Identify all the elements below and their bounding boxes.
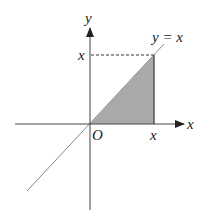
x-tick-label: x bbox=[149, 127, 157, 143]
y-axis-label: y bbox=[83, 10, 92, 26]
line-label: y = x bbox=[150, 29, 183, 45]
x-axis-label: x bbox=[186, 116, 194, 132]
origin-label: O bbox=[92, 127, 103, 143]
diagram-canvas: y x O x x y = x bbox=[0, 0, 207, 220]
y-tick-label: x bbox=[77, 47, 85, 63]
